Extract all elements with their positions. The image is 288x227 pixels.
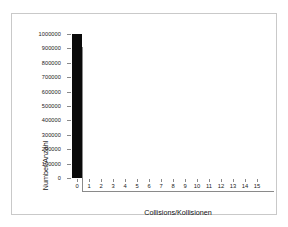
figure-border: 0100000200000300000400000500000600000700… [11,13,277,215]
y-axis-title: Number/Anzahl [41,111,50,221]
bar [72,34,82,178]
y-axis-title-holder: Number/Anzahl [34,64,46,174]
bar-series [12,14,288,227]
x-axis-title: Collisions/Kollisionen [82,208,274,217]
chart-figure: 0100000200000300000400000500000600000700… [0,0,288,227]
